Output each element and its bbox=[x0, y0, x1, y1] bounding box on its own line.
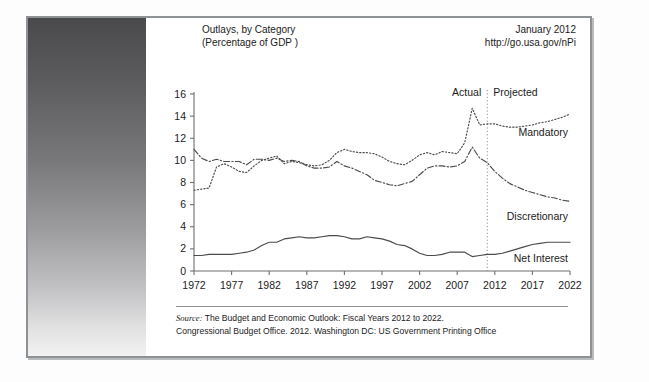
y-tick-label: 8 bbox=[180, 176, 186, 188]
annotation-discretionary: Discretionary bbox=[507, 210, 569, 222]
annotation-net-interest: Net Interest bbox=[514, 252, 568, 264]
annotation-actual: Actual bbox=[452, 86, 481, 98]
x-tick-label: 1997 bbox=[370, 279, 394, 291]
annotation-projected: Projected bbox=[493, 86, 538, 98]
y-tick-label: 2 bbox=[180, 242, 186, 254]
source-prefix: Source: bbox=[176, 313, 202, 323]
y-tick-label: 16 bbox=[174, 88, 186, 100]
chart-title: Outlays, by Category (Percentage of GDP … bbox=[202, 24, 298, 49]
chart-url[interactable]: http://go.usa.gov/nPi bbox=[485, 37, 576, 50]
x-tick-label: 1992 bbox=[333, 279, 357, 291]
source-line2: Congressional Budget Office. 2012. Washi… bbox=[176, 325, 576, 338]
x-tick-label: 2002 bbox=[408, 279, 432, 291]
x-tick-label: 1977 bbox=[220, 279, 244, 291]
y-tick-label: 14 bbox=[174, 110, 186, 122]
chart-zone: Outlays, by Category (Percentage of GDP … bbox=[150, 18, 590, 356]
chart-title-line1: Outlays, by Category bbox=[202, 24, 298, 37]
y-tick-label: 6 bbox=[180, 198, 186, 210]
plot-area: 0246810121416197219771982198719921997200… bbox=[164, 86, 582, 301]
chart-meta: January 2012 http://go.usa.gov/nPi bbox=[485, 24, 576, 49]
line-chart-svg: 0246810121416197219771982198719921997200… bbox=[164, 86, 582, 301]
y-tick-label: 0 bbox=[180, 265, 186, 277]
series-line-discretionary bbox=[194, 147, 570, 201]
source-note: Source: The Budget and Economic Outlook:… bbox=[176, 312, 576, 337]
x-tick-label: 2022 bbox=[558, 279, 582, 291]
chart-date: January 2012 bbox=[485, 24, 576, 37]
y-tick-label: 4 bbox=[180, 220, 186, 232]
annotation-mandatory: Mandatory bbox=[518, 126, 568, 138]
y-tick-label: 10 bbox=[174, 154, 186, 166]
exhibit-side-panel bbox=[28, 18, 146, 356]
x-tick-label: 2017 bbox=[521, 279, 545, 291]
x-tick-label: 1987 bbox=[295, 279, 319, 291]
x-tick-label: 1982 bbox=[258, 279, 282, 291]
x-tick-label: 1972 bbox=[182, 279, 206, 291]
exhibit-page: EXHIBIT 4.3 Major Components of Federal … bbox=[0, 0, 649, 382]
series-line-mandatory bbox=[194, 108, 570, 190]
chart-title-line2: (Percentage of GDP ) bbox=[202, 37, 298, 50]
x-tick-label: 2007 bbox=[446, 279, 470, 291]
x-tick-label: 2012 bbox=[483, 279, 507, 291]
source-line1: The Budget and Economic Outlook: Fiscal … bbox=[202, 313, 444, 323]
source-divider bbox=[176, 306, 568, 307]
y-tick-label: 12 bbox=[174, 132, 186, 144]
